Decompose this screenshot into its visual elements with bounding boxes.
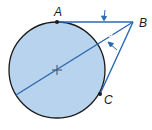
arrow-mark-ab <box>102 10 107 21</box>
arrow-mark-bc <box>108 42 117 50</box>
point-a <box>55 20 59 24</box>
label-c: C <box>104 93 113 107</box>
point-c <box>98 92 102 96</box>
angle-1-label: ∠1 <box>97 26 115 40</box>
label-b: B <box>139 16 147 30</box>
tangent-secant-diagram: A B C ∠1 <box>0 0 152 130</box>
label-a: A <box>53 5 62 19</box>
